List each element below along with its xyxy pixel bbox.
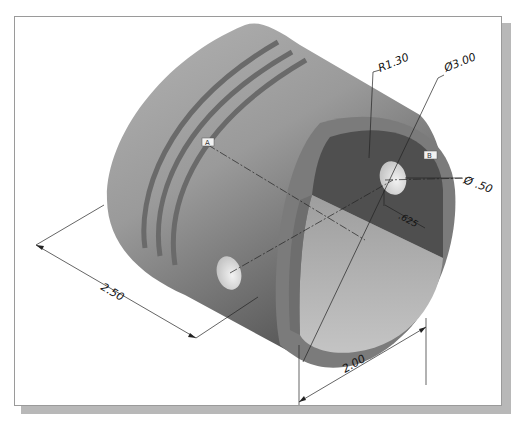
- svg-text:A: A: [205, 139, 210, 147]
- dim-radius: R1.30: [376, 51, 411, 75]
- dim-hole-diameter: Ø .50: [461, 173, 494, 196]
- dim-outer-diameter: Ø3.00: [441, 50, 478, 75]
- datum-label-a: A: [202, 138, 214, 147]
- datum-label-b: B: [424, 151, 437, 160]
- piston-drawing: A B R1.30 Ø3.00 Ø .50 .625 2.50 2.00: [0, 0, 531, 424]
- svg-text:B: B: [427, 152, 432, 160]
- dim-length: 2.50: [99, 280, 127, 304]
